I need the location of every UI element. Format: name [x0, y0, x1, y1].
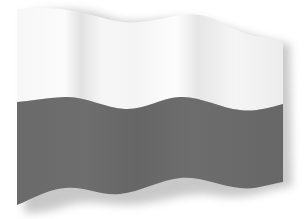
flag-top-stripe [17, 8, 283, 111]
waving-flag-graphic [0, 0, 305, 219]
flag-image [0, 0, 305, 219]
